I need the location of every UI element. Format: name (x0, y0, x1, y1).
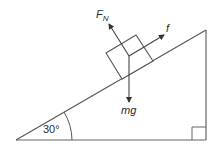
angle-arc (64, 112, 72, 140)
weight-force-label: mg (121, 105, 136, 116)
right-angle-marker (192, 127, 206, 140)
normal-force-label: FN (96, 9, 109, 23)
friction-force-label: f (166, 23, 169, 34)
inclined-plane-diagram: FN f mg 30° (0, 0, 220, 147)
incline-angle-label: 30° (43, 124, 60, 135)
diagram-graphics (0, 0, 220, 147)
